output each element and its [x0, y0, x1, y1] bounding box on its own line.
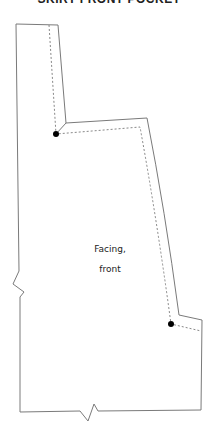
- piece-label-line2: front: [60, 264, 160, 274]
- marker-dot-lower: [168, 321, 174, 327]
- cut-line: [13, 24, 202, 421]
- pattern-diagram: [0, 0, 218, 430]
- seam-line: [49, 25, 201, 331]
- marker-dot-upper: [53, 131, 59, 137]
- piece-label-line1: Facing,: [60, 244, 160, 254]
